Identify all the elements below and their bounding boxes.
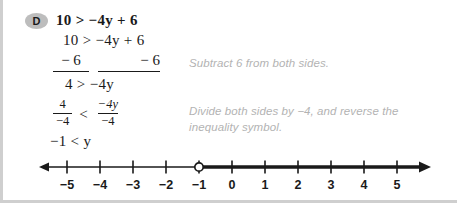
tick-label: 4 bbox=[361, 178, 368, 192]
fraction-left-denominator: −4 bbox=[53, 113, 72, 129]
fraction-step-row: 4 −4 < −4y −4 bbox=[53, 98, 121, 128]
tick-label: −3 bbox=[126, 178, 140, 192]
tick-label: −2 bbox=[159, 178, 173, 192]
equation-line-solution: −1 < y bbox=[50, 133, 91, 150]
fraction-right-denominator: −4 bbox=[98, 113, 117, 129]
fraction-right-numerator: −4y bbox=[95, 98, 121, 113]
tick-label: 3 bbox=[328, 178, 335, 192]
equation-line-4: 4 > −4y bbox=[65, 76, 114, 93]
left-arrow-head bbox=[39, 163, 49, 172]
tick-label: −5 bbox=[60, 178, 74, 192]
open-circle-endpoint bbox=[195, 163, 203, 171]
annotation-step-2: Divide both sides by −4, and reverse the… bbox=[189, 103, 449, 135]
tick-label: 1 bbox=[262, 178, 269, 192]
fraction-right: −4y −4 bbox=[95, 98, 121, 128]
subtract-term-right: − 6 bbox=[98, 52, 160, 72]
equation-line-1: 10 > −4y + 6 bbox=[56, 12, 138, 29]
fraction-left-numerator: 4 bbox=[57, 98, 69, 113]
tick-label: 2 bbox=[295, 178, 302, 192]
number-line: −5 −4 −3 −2 −1 0 1 2 3 4 5 bbox=[35, 158, 435, 200]
step-badge: D bbox=[25, 13, 48, 29]
tick-label: 5 bbox=[394, 178, 401, 192]
subtract-term-left: − 6 bbox=[53, 52, 89, 72]
relation-symbol: < bbox=[79, 106, 87, 123]
annotation-step-1: Subtract 6 from both sides. bbox=[189, 55, 329, 71]
worked-example-panel: D 10 > −4y + 6 10 > −4y + 6 − 6 − 6 4 > … bbox=[0, 0, 457, 203]
tick-label: −4 bbox=[93, 178, 107, 192]
tick-label: 0 bbox=[229, 178, 236, 192]
equation-line-2: 10 > −4y + 6 bbox=[63, 32, 144, 49]
tick-label: −1 bbox=[192, 178, 206, 192]
fraction-left: 4 −4 bbox=[53, 98, 72, 128]
